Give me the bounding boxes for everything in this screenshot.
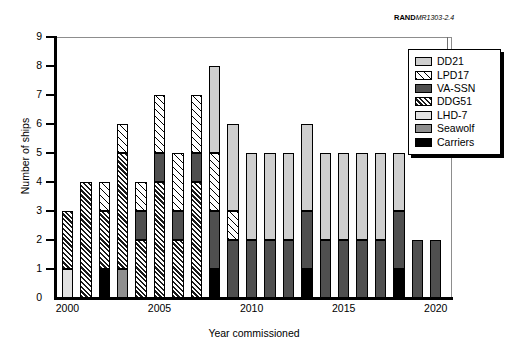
bar-segment-va-ssn: [320, 240, 331, 298]
rand-credit: RANDMR1303-2.4: [394, 13, 454, 22]
y-axis-tick: [46, 65, 55, 66]
y-axis-tick: [46, 94, 55, 95]
legend-item-ddg51[interactable]: DDG51: [415, 95, 495, 108]
bar-segment-va-ssn: [227, 240, 238, 298]
bar-segment-va-ssn: [154, 153, 165, 182]
y-axis-tick-label: 4: [0, 176, 42, 186]
bar-segment-lhd-7: [62, 269, 73, 298]
x-axis-tick-label: 2020: [413, 303, 459, 314]
bar-2008: [209, 37, 220, 298]
y-axis-tick: [46, 210, 55, 211]
legend-item-carriers[interactable]: Carriers: [415, 135, 495, 148]
legend-item-dd21[interactable]: DD21: [415, 55, 495, 68]
y-axis-tick-label: 3: [0, 205, 42, 215]
bar-segment-va-ssn: [430, 240, 441, 298]
legend-swatch-icon: [415, 57, 432, 66]
y-axis-tick-label: 6: [0, 118, 42, 128]
bar-segment-va-ssn: [338, 240, 349, 298]
legend: DD21LPD17VA-SSNDDG51LHD-7SeawolfCarriers: [408, 49, 501, 155]
bar-2005: [154, 37, 165, 298]
y-axis-tick-label: 2: [0, 234, 42, 244]
x-axis-tick-label: 2010: [229, 303, 275, 314]
y-axis-tick: [46, 123, 55, 124]
legend-item-label: VA-SSN: [437, 83, 475, 94]
legend-item-va-ssn[interactable]: VA-SSN: [415, 82, 495, 95]
legend-swatch-icon: [415, 138, 432, 147]
bar-2012: [283, 37, 294, 298]
legend-swatch-icon: [415, 97, 432, 106]
bar-segment-dd21: [283, 153, 294, 240]
bar-2004: [135, 37, 146, 298]
legend-item-label: LHD-7: [437, 110, 467, 121]
bar-segment-dd21: [227, 124, 238, 211]
bar-segment-dd21: [320, 153, 331, 240]
bar-segment-va-ssn: [135, 211, 146, 240]
y-axis-tick-label: 9: [0, 31, 42, 41]
bar-segment-lpd17: [99, 182, 110, 211]
bar-segment-va-ssn: [246, 240, 257, 298]
bar-segment-lpd17: [172, 153, 183, 211]
bar-segment-va-ssn: [264, 240, 275, 298]
x-axis-title: Year commissioned: [56, 327, 452, 339]
bar-segment-dd21: [301, 124, 312, 211]
bar-2007: [191, 37, 202, 298]
bar-2018: [393, 37, 404, 298]
y-axis-tick: [46, 36, 55, 37]
bar-segment-dd21: [209, 66, 220, 153]
legend-item-label: DDG51: [437, 96, 472, 107]
legend-item-seawolf[interactable]: Seawolf: [415, 122, 495, 135]
bar-segment-va-ssn: [393, 211, 404, 269]
bar-2003: [117, 37, 128, 298]
legend-swatch-icon: [415, 111, 432, 120]
legend-leader-line: [447, 37, 448, 49]
bar-segment-ddg51: [172, 240, 183, 298]
bar-segment-dd21: [338, 153, 349, 240]
bar-2006: [172, 37, 183, 298]
y-axis-tick: [46, 181, 55, 182]
rand-logo-text: RAND: [394, 13, 416, 22]
bar-segment-dd21: [356, 153, 367, 240]
bar-segment-lpd17: [209, 153, 220, 211]
bar-2014: [320, 37, 331, 298]
bar-segment-ddg51: [80, 182, 91, 298]
bar-segment-lpd17: [154, 95, 165, 153]
bar-segment-carriers: [209, 269, 220, 298]
bar-segment-ddg51: [62, 211, 73, 269]
bar-segment-va-ssn: [209, 211, 220, 269]
bar-2013: [301, 37, 312, 298]
bar-2009: [227, 37, 238, 298]
legend-swatch-icon: [415, 71, 432, 80]
bar-2000: [62, 37, 73, 298]
bar-segment-va-ssn: [191, 153, 202, 182]
bar-segment-seawolf: [117, 269, 128, 298]
bar-segment-carriers: [99, 269, 110, 298]
y-axis-tick: [46, 239, 55, 240]
bar-segment-lpd17: [191, 95, 202, 153]
rand-document-number: MR1303-2.4: [416, 14, 455, 21]
bar-2001: [80, 37, 91, 298]
bar-segment-dd21: [246, 153, 257, 240]
chart-container: RANDMR1303-2.4 Number of ships Year comm…: [0, 0, 512, 358]
y-axis-tick: [46, 268, 55, 269]
y-axis-tick-label: 7: [0, 89, 42, 99]
bar-segment-va-ssn: [283, 240, 294, 298]
bar-segment-va-ssn: [301, 211, 312, 269]
bar-segment-ddg51: [154, 182, 165, 298]
y-axis-tick-label: 5: [0, 147, 42, 157]
bar-segment-ddg51: [135, 240, 146, 298]
y-axis-tick: [46, 152, 55, 153]
bar-segment-va-ssn: [356, 240, 367, 298]
legend-item-label: Carriers: [437, 137, 474, 148]
bar-segment-dd21: [375, 153, 386, 240]
legend-item-lpd17[interactable]: LPD17: [415, 68, 495, 81]
legend-item-lhd-7[interactable]: LHD-7: [415, 109, 495, 122]
bar-2002: [99, 37, 110, 298]
bar-segment-lpd17: [117, 124, 128, 153]
bar-segment-lpd17: [227, 211, 238, 240]
bar-segment-ddg51: [99, 211, 110, 269]
bar-segment-ddg51: [117, 153, 128, 269]
bar-segment-va-ssn: [375, 240, 386, 298]
y-axis-tick-label: 8: [0, 60, 42, 70]
x-axis-tick-label: 2015: [321, 303, 367, 314]
bar-2010: [246, 37, 257, 298]
